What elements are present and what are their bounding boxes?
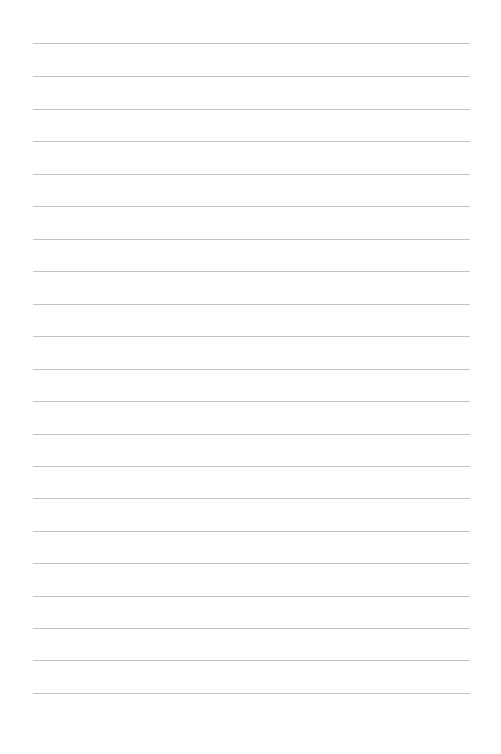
ruled-line [33, 434, 470, 435]
ruled-line [33, 401, 470, 402]
ruled-line [33, 336, 470, 337]
ruled-line [33, 271, 470, 272]
ruled-line [33, 466, 470, 467]
ruled-line [33, 369, 470, 370]
ruled-line [33, 141, 470, 142]
ruled-line [33, 531, 470, 532]
ruled-line [33, 43, 470, 44]
lined-paper-page [0, 0, 501, 754]
ruled-line [33, 693, 470, 694]
ruled-line [33, 660, 470, 661]
ruled-line [33, 109, 470, 110]
ruled-line [33, 628, 470, 629]
ruled-line [33, 304, 470, 305]
ruled-line [33, 596, 470, 597]
ruled-line [33, 498, 470, 499]
ruled-line [33, 239, 470, 240]
ruled-line [33, 563, 470, 564]
ruled-line [33, 174, 470, 175]
ruled-line [33, 206, 470, 207]
ruled-line [33, 76, 470, 77]
